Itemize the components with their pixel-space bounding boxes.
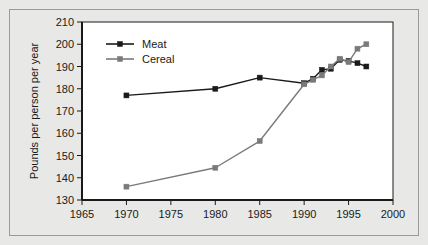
y-tick-label: 180 [56,83,74,95]
data-point-cereal [346,60,351,65]
y-tick-label: 140 [56,172,74,184]
line-chart: 1301401501601701801902002101965197019751… [0,0,428,245]
y-tick-label: 210 [56,16,74,28]
x-tick-label: 1965 [70,208,94,220]
y-tick-label: 160 [56,127,74,139]
data-point-cereal [364,42,369,47]
data-point-cereal [337,56,342,61]
legend-label-meat: Meat [142,38,166,50]
x-tick-label: 1970 [114,208,138,220]
data-point-cereal [311,77,316,82]
legend-marker-meat [118,42,123,47]
x-tick-label: 1990 [292,208,316,220]
data-point-cereal [302,82,307,87]
x-tick-label: 1995 [336,208,360,220]
y-tick-label: 170 [56,105,74,117]
legend-label-cereal: Cereal [142,53,174,65]
y-tick-label: 190 [56,61,74,73]
data-point-cereal [355,46,360,51]
x-tick-label: 1980 [203,208,227,220]
data-point-meat [355,61,360,66]
data-point-cereal [213,165,218,170]
data-point-cereal [328,64,333,69]
data-point-cereal [319,73,324,78]
y-tick-label: 130 [56,194,74,206]
data-point-meat [124,93,129,98]
data-point-meat [319,67,324,72]
plot-area [82,22,393,200]
x-tick-label: 2000 [381,208,405,220]
data-point-cereal [124,184,129,189]
x-tick-label: 1985 [247,208,271,220]
data-point-meat [213,86,218,91]
x-tick-label: 1975 [159,208,183,220]
data-point-cereal [257,139,262,144]
legend-marker-cereal [118,57,123,62]
y-tick-label: 200 [56,38,74,50]
y-axis-title: Pounds per person per year [28,42,40,179]
y-tick-label: 150 [56,150,74,162]
figure-container: 1301401501601701801902002101965197019751… [0,0,428,245]
data-point-meat [364,64,369,69]
data-point-meat [257,75,262,80]
